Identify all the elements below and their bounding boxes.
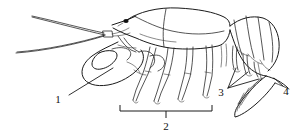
walking-leg-1b — [136, 48, 156, 101]
walking-leg-5b — [226, 44, 227, 66]
label-2: 2 — [163, 120, 169, 132]
walking-leg-1-icon — [133, 47, 150, 100]
antenna-upper-icon — [32, 16, 104, 33]
antennae-group — [16, 16, 130, 53]
swimmeret-3-icon — [254, 62, 258, 77]
antenna-upper-lower-edge — [32, 17, 105, 35]
walking-leg-4-dactyl — [203, 95, 209, 98]
eyestalk-icon — [118, 23, 123, 26]
swimmeret-3b-icon — [258, 63, 261, 78]
antenna-lower-icon — [16, 36, 104, 53]
label-4: 4 — [283, 85, 289, 97]
eye-icon — [123, 19, 128, 23]
abdomen-pleuron-2 — [248, 54, 262, 64]
walking-leg-3-joint — [185, 73, 191, 74]
abdomen-segment-line-4 — [269, 22, 273, 62]
telson-icon — [235, 76, 275, 117]
crayfish-drawing: 1 2 3 4 — [0, 0, 298, 134]
carapace-outline — [127, 8, 230, 26]
swimmeret-1-tip — [233, 69, 240, 72]
swimmeret-1-icon — [232, 46, 234, 69]
carapace-texture-1 — [140, 34, 176, 42]
abdomen-segment-line-3 — [258, 17, 264, 60]
cervical-groove — [163, 9, 166, 47]
tail-fan-group — [235, 76, 289, 117]
label-3: 3 — [218, 86, 224, 98]
label-1: 1 — [55, 93, 61, 105]
walking-leg-3-icon — [178, 48, 187, 99]
walking-leg-4b — [207, 45, 213, 96]
leader-line-1 — [69, 68, 113, 95]
cheliped-texture-1 — [127, 62, 140, 73]
walking-leg-4-icon — [203, 46, 207, 95]
carapace-ridge — [134, 16, 224, 34]
walking-leg-1-joint — [145, 71, 151, 72]
number-labels-group: 1 2 3 4 — [55, 85, 289, 132]
abdomen-segment-line-2 — [246, 16, 254, 58]
abdomen-pleuron-3 — [260, 60, 270, 70]
swimmeret-2b-icon — [247, 55, 250, 74]
walking-leg-1-dactyl — [133, 100, 138, 103]
cheliped-movable-finger-icon — [112, 48, 131, 60]
walking-leg-5-icon — [221, 45, 222, 67]
abdomen-top-outline — [230, 17, 279, 71]
crayfish-figure: 1 2 3 4 — [0, 0, 298, 134]
walking-leg-3-dactyl — [178, 99, 184, 102]
bracket-2 — [120, 105, 212, 111]
walking-leg-2-dactyl — [154, 101, 160, 104]
antenna-lower-upper-edge — [17, 35, 105, 52]
antennal-scale-icon — [103, 31, 113, 37]
walking-legs-group — [133, 44, 227, 104]
maxilliped-icon — [118, 36, 136, 52]
